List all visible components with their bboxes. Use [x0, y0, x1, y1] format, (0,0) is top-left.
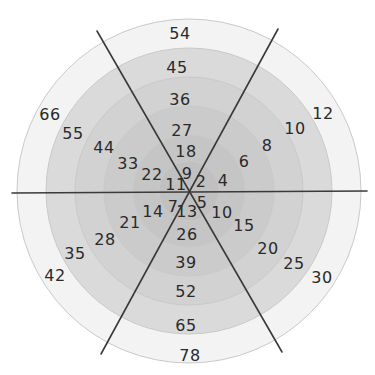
number-label: 11: [165, 175, 186, 194]
number-label: 21: [119, 213, 140, 232]
number-label: 4: [218, 171, 229, 190]
number-label: 55: [62, 124, 83, 143]
number-label: 6: [239, 152, 250, 171]
number-label: 33: [117, 154, 138, 173]
number-label: 15: [233, 216, 254, 235]
number-label: 44: [93, 138, 114, 157]
number-label: 36: [169, 90, 190, 109]
multiplication-wheel: 9182736455424681012510152025301326395265…: [0, 0, 375, 375]
number-label: 14: [142, 202, 163, 221]
number-label: 66: [39, 105, 60, 124]
number-label: 28: [94, 230, 115, 249]
number-label: 26: [176, 225, 197, 244]
number-label: 10: [284, 119, 305, 138]
number-label: 22: [141, 165, 162, 184]
number-label: 8: [262, 136, 273, 155]
number-label: 12: [312, 104, 333, 123]
number-label: 78: [179, 346, 200, 365]
number-label: 13: [176, 202, 197, 221]
number-label: 18: [175, 142, 196, 161]
number-label: 2: [196, 172, 207, 191]
number-label: 54: [169, 24, 190, 43]
number-label: 35: [64, 244, 85, 263]
number-label: 27: [171, 121, 192, 140]
number-label: 52: [175, 282, 196, 301]
number-label: 5: [197, 193, 208, 212]
number-label: 45: [166, 58, 187, 77]
number-label: 20: [257, 239, 278, 258]
number-label: 7: [168, 197, 179, 216]
number-label: 25: [283, 254, 304, 273]
number-label: 30: [311, 268, 332, 287]
number-label: 42: [44, 266, 65, 285]
number-label: 10: [211, 203, 232, 222]
number-label: 39: [175, 253, 196, 272]
number-label: 65: [175, 316, 196, 335]
